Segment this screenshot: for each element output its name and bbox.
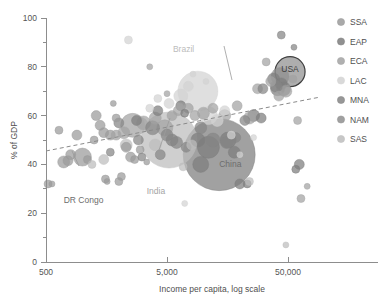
y-tick-label: 100 [23, 13, 37, 23]
bubble-mna [206, 133, 220, 147]
legend-label-nam[interactable]: NAM [350, 115, 369, 125]
bubble-ssa [91, 111, 101, 121]
bubble-ssa [136, 146, 144, 154]
bubble-eca [164, 91, 170, 97]
y-tick-label: 60 [28, 111, 38, 121]
bubble-lac [154, 95, 162, 103]
bubble-eca [274, 91, 284, 101]
bubble-eca [294, 116, 302, 124]
legend-label-sas[interactable]: SAS [350, 134, 367, 144]
bubble-mna [155, 150, 165, 160]
bubble-ssa [121, 142, 131, 152]
bubble-sas [283, 242, 289, 248]
annotation-label-usa: USA [281, 64, 299, 74]
legend-label-eca[interactable]: ECA [350, 56, 368, 66]
bubble-sas [245, 177, 253, 185]
bubble-eca [147, 64, 153, 70]
bubble-ssa [112, 114, 120, 122]
legend-label-eap[interactable]: EAP [350, 37, 367, 47]
bubble-eap [153, 106, 163, 116]
annotation-label-india: India [147, 186, 166, 196]
legend-swatch-lac[interactable] [337, 77, 344, 84]
bubble-sas [99, 155, 109, 165]
legend-swatch-eca[interactable] [337, 57, 344, 64]
bubble-lac [190, 71, 196, 77]
bubble-lac [124, 36, 132, 44]
bubble-ssa [66, 150, 76, 160]
annotation-leader-line [224, 46, 232, 80]
bubble-lac [251, 135, 257, 141]
legend-swatch-eap[interactable] [337, 38, 344, 45]
bubble-mna [240, 115, 250, 125]
x-tick-label: 50,000 [275, 267, 301, 277]
legend-swatch-mna[interactable] [337, 96, 344, 103]
bubble-ssa [104, 178, 110, 184]
bubble-lac [237, 152, 243, 158]
bubble-lac [164, 98, 174, 108]
y-tick-label: 20 [28, 208, 38, 218]
bubble-ssa [90, 136, 98, 144]
x-axis-title: Income per capita, log scale [159, 284, 265, 294]
bubble-lac [182, 200, 188, 206]
chart-canvas: 020406080100 5005,00050,000 % of GDP Inc… [0, 0, 389, 306]
annotation-label-dr-congo: DR Congo [64, 195, 104, 205]
bubble-mna [277, 31, 285, 39]
y-tick-label: 80 [28, 62, 38, 72]
bubble-mna [171, 136, 183, 148]
bubble-sas [179, 163, 187, 171]
legend-swatch-sas[interactable] [337, 135, 344, 142]
bubble-ssa [72, 130, 82, 140]
bubble-mna [133, 135, 143, 145]
chart-legend: SSAEAPECALACMNANAMSAS [337, 17, 369, 144]
annotation-label-china: China [219, 159, 241, 169]
bubbles-layer [44, 31, 310, 248]
bubble-ssa [131, 156, 139, 164]
bubble-mna [291, 44, 297, 50]
bubble-lac [203, 78, 209, 84]
x-axis-ticks: 5005,00050,000 [39, 257, 301, 277]
x-tick-label: 500 [39, 267, 53, 277]
bubble-eca [111, 130, 121, 140]
bubble-mna [106, 148, 114, 156]
y-axis-ticks: 020406080100 [23, 13, 46, 267]
bubble-ssa [110, 100, 116, 106]
legend-swatch-ssa[interactable] [337, 18, 344, 25]
legend-label-mna[interactable]: MNA [350, 95, 369, 105]
bubble-ssa [49, 181, 55, 187]
bubble-eca [190, 111, 200, 121]
bubble-eca [208, 103, 218, 113]
bubble-eca [289, 75, 297, 83]
bubble-sas [187, 140, 197, 150]
legend-label-lac[interactable]: LAC [350, 76, 367, 86]
bubble-sas [88, 160, 96, 168]
bubble-eap [132, 115, 142, 125]
x-tick-label: 5,000 [156, 267, 178, 277]
bubble-mna [258, 84, 268, 94]
y-tick-label: 40 [28, 159, 38, 169]
bubble-ssa [55, 126, 63, 134]
bubble-mna [195, 122, 207, 134]
bubble-eap [181, 109, 189, 117]
bubble-eca [304, 183, 310, 189]
annotation-label-brazil: Brazil [173, 44, 194, 54]
bubble-ssa [144, 159, 150, 165]
bubble-eca [266, 76, 276, 86]
bubble-lac [183, 81, 193, 91]
bubble-lac [227, 131, 235, 139]
bubble-eap [193, 156, 209, 172]
bubble-ssa [117, 173, 125, 181]
bubble-lac [220, 106, 230, 116]
bubble-eap [256, 113, 266, 123]
legend-swatch-nam[interactable] [337, 116, 344, 123]
bubble-chart: 020406080100 5005,00050,000 % of GDP Inc… [0, 0, 389, 306]
y-tick-label: 0 [32, 257, 37, 267]
legend-label-ssa[interactable]: SSA [350, 17, 367, 27]
bubble-eca [262, 58, 270, 66]
bubble-lac [146, 104, 154, 112]
bubble-eap [292, 165, 300, 173]
bubble-eca [232, 101, 242, 111]
y-axis-title: % of GDP [9, 121, 19, 159]
bubble-eca [297, 195, 305, 203]
